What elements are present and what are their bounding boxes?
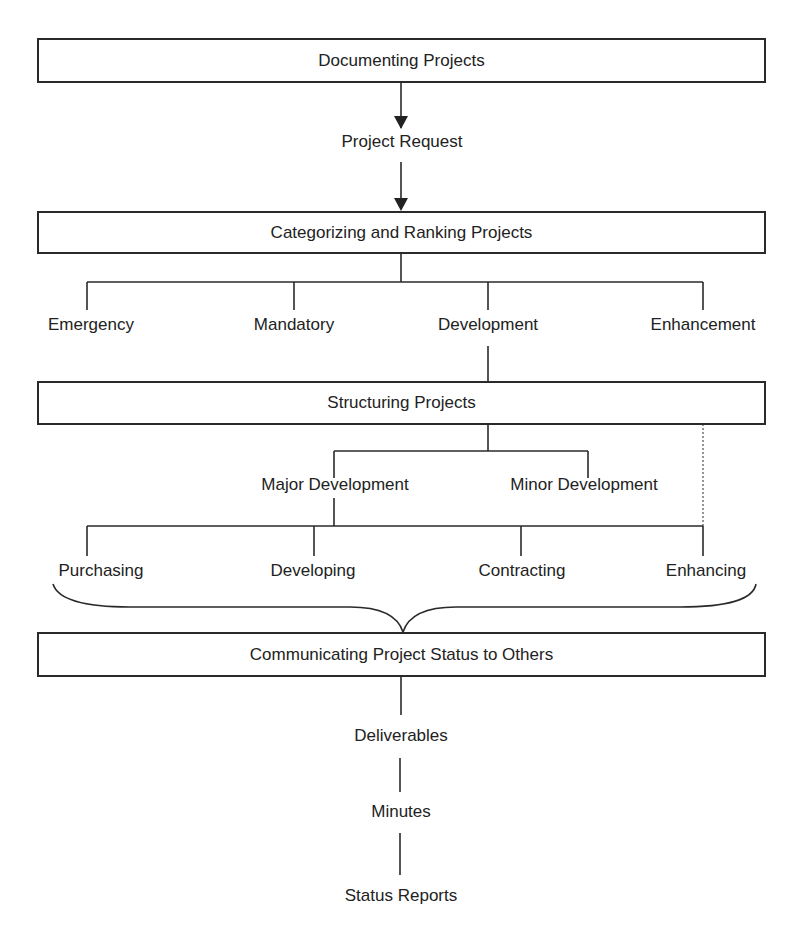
method-contracting: Contracting — [479, 561, 566, 581]
brace-icon — [53, 584, 756, 632]
arrowhead-icon — [394, 198, 408, 211]
method-purchasing: Purchasing — [58, 561, 143, 581]
output-deliverables: Deliverables — [354, 726, 448, 746]
category-development: Development — [438, 315, 538, 335]
category-mandatory: Mandatory — [254, 315, 334, 335]
communicating-box: Communicating Project Status to Others — [37, 632, 766, 677]
method-developing: Developing — [270, 561, 355, 581]
box-label: Categorizing and Ranking Projects — [271, 223, 533, 243]
minor-development-label: Minor Development — [510, 475, 657, 495]
category-emergency: Emergency — [48, 315, 134, 335]
structuring-box: Structuring Projects — [37, 381, 766, 425]
box-label: Structuring Projects — [327, 393, 475, 413]
categorizing-box: Categorizing and Ranking Projects — [37, 211, 766, 254]
box-label: Documenting Projects — [318, 51, 484, 71]
output-status-reports: Status Reports — [345, 886, 457, 906]
documenting-projects-box: Documenting Projects — [37, 38, 766, 83]
box-label: Communicating Project Status to Others — [250, 645, 553, 665]
method-enhancing: Enhancing — [666, 561, 746, 581]
arrowhead-icon — [394, 116, 408, 129]
project-request-label: Project Request — [342, 132, 463, 152]
category-enhancement: Enhancement — [651, 315, 756, 335]
major-development-label: Major Development — [261, 475, 408, 495]
output-minutes: Minutes — [371, 802, 431, 822]
